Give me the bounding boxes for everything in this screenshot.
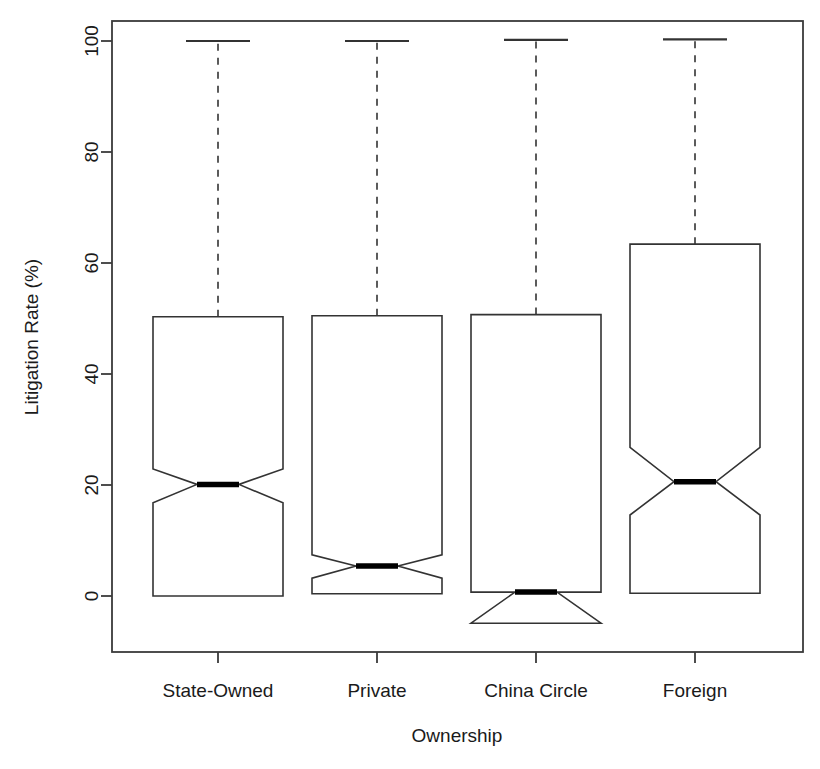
chart-figure: 020406080100 State-OwnedPrivateChina Cir… xyxy=(0,0,820,769)
x-tick-label-china-circle: China Circle xyxy=(484,680,587,701)
box-notched-outline xyxy=(630,244,760,593)
boxplot-series xyxy=(153,39,760,623)
boxplot-box xyxy=(630,39,760,593)
y-axis: 020406080100 xyxy=(81,25,113,601)
x-tick-label-foreign: Foreign xyxy=(663,680,727,701)
y-tick-label: 40 xyxy=(81,363,102,384)
x-tick-label-private: Private xyxy=(347,680,406,701)
y-tick-label: 100 xyxy=(81,25,102,57)
y-tick-label: 20 xyxy=(81,474,102,495)
x-axis: State-OwnedPrivateChina CircleForeign xyxy=(163,652,728,701)
box-notched-outline xyxy=(312,316,442,594)
x-tick-label-state-owned: State-Owned xyxy=(163,680,274,701)
y-tick-label: 0 xyxy=(81,591,102,602)
boxplot-box xyxy=(153,41,283,596)
boxplot-svg: 020406080100 State-OwnedPrivateChina Cir… xyxy=(0,0,820,769)
x-axis-title: Ownership xyxy=(412,725,503,746)
box-notched-outline xyxy=(153,317,283,596)
y-axis-title: Litigation Rate (%) xyxy=(21,259,42,415)
boxplot-box xyxy=(312,41,442,594)
box-notched-outline xyxy=(471,315,601,624)
boxplot-box xyxy=(471,40,601,623)
y-tick-label: 60 xyxy=(81,252,102,273)
y-tick-label: 80 xyxy=(81,141,102,162)
